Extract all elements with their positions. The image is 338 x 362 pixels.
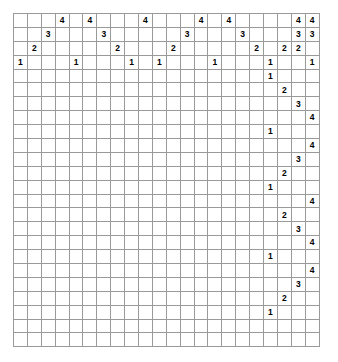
puzzle-cell-filled[interactable] — [41, 264, 55, 278]
puzzle-cell-empty[interactable] — [250, 277, 264, 291]
puzzle-cell-empty[interactable] — [69, 125, 83, 139]
puzzle-cell-filled[interactable] — [27, 250, 41, 264]
puzzle-cell-filled[interactable] — [222, 125, 236, 139]
puzzle-cell-filled[interactable] — [250, 250, 264, 264]
puzzle-cell-filled[interactable] — [222, 83, 236, 97]
puzzle-cell-filled[interactable] — [83, 111, 97, 125]
puzzle-cell-empty[interactable] — [41, 222, 55, 236]
puzzle-cell-empty[interactable] — [41, 333, 55, 347]
puzzle-cell-filled[interactable] — [222, 194, 236, 208]
puzzle-cell-filled[interactable] — [97, 166, 111, 180]
puzzle-cell-empty[interactable] — [69, 291, 83, 305]
puzzle-cell-empty[interactable] — [250, 152, 264, 166]
puzzle-cell-filled[interactable] — [166, 194, 180, 208]
puzzle-cell-filled[interactable] — [236, 83, 250, 97]
puzzle-cell-filled[interactable] — [41, 166, 55, 180]
puzzle-cell-filled[interactable] — [180, 208, 194, 222]
puzzle-cell-empty[interactable] — [180, 152, 194, 166]
puzzle-cell-filled[interactable] — [27, 111, 41, 125]
puzzle-cell-filled[interactable] — [236, 194, 250, 208]
puzzle-cell-empty[interactable] — [27, 152, 41, 166]
puzzle-cell-filled[interactable] — [55, 83, 69, 97]
puzzle-cell-filled[interactable] — [69, 83, 83, 97]
puzzle-cell-filled[interactable] — [27, 166, 41, 180]
puzzle-cell-empty[interactable] — [55, 319, 69, 333]
puzzle-cell-filled[interactable] — [125, 97, 139, 111]
puzzle-cell-empty[interactable] — [194, 83, 208, 97]
puzzle-cell-empty[interactable] — [250, 333, 264, 347]
puzzle-cell-empty[interactable] — [236, 139, 250, 153]
puzzle-cell-empty[interactable] — [14, 111, 28, 125]
puzzle-cell-filled[interactable] — [139, 291, 153, 305]
puzzle-cell-empty[interactable] — [208, 180, 222, 194]
puzzle-cell-filled[interactable] — [250, 166, 264, 180]
puzzle-cell-empty[interactable] — [55, 111, 69, 125]
puzzle-cell-filled[interactable] — [180, 83, 194, 97]
puzzle-cell-filled[interactable] — [152, 250, 166, 264]
puzzle-cell-empty[interactable] — [166, 319, 180, 333]
puzzle-cell-filled[interactable] — [111, 208, 125, 222]
puzzle-cell-filled[interactable] — [236, 333, 250, 347]
puzzle-cell-empty[interactable] — [41, 97, 55, 111]
puzzle-cell-empty[interactable] — [97, 222, 111, 236]
puzzle-cell-empty[interactable] — [27, 291, 41, 305]
puzzle-cell-empty[interactable] — [27, 194, 41, 208]
puzzle-cell-filled[interactable] — [250, 305, 264, 319]
puzzle-cell-filled[interactable] — [83, 166, 97, 180]
puzzle-cell-empty[interactable] — [194, 333, 208, 347]
puzzle-cell-empty[interactable] — [111, 180, 125, 194]
puzzle-cell-empty[interactable] — [14, 305, 28, 319]
puzzle-cell-empty[interactable] — [139, 333, 153, 347]
puzzle-cell-empty[interactable] — [55, 97, 69, 111]
puzzle-cell-filled[interactable] — [222, 208, 236, 222]
puzzle-cell-empty[interactable] — [27, 333, 41, 347]
puzzle-cell-empty[interactable] — [55, 250, 69, 264]
puzzle-cell-filled[interactable] — [194, 250, 208, 264]
puzzle-cell-empty[interactable] — [250, 139, 264, 153]
puzzle-cell-empty[interactable] — [194, 139, 208, 153]
puzzle-cell-empty[interactable] — [14, 277, 28, 291]
puzzle-cell-filled[interactable] — [250, 97, 264, 111]
puzzle-cell-empty[interactable] — [125, 166, 139, 180]
puzzle-cell-empty[interactable] — [194, 125, 208, 139]
puzzle-cell-filled[interactable] — [180, 139, 194, 153]
puzzle-cell-empty[interactable] — [236, 291, 250, 305]
puzzle-cell-filled[interactable] — [208, 264, 222, 278]
puzzle-cell-empty[interactable] — [152, 222, 166, 236]
puzzle-cell-filled[interactable] — [69, 319, 83, 333]
puzzle-cell-empty[interactable] — [83, 264, 97, 278]
puzzle-cell-empty[interactable] — [194, 208, 208, 222]
puzzle-cell-filled[interactable] — [194, 236, 208, 250]
puzzle-cell-empty[interactable] — [83, 291, 97, 305]
puzzle-cell-empty[interactable] — [27, 69, 41, 83]
puzzle-cell-filled[interactable] — [55, 69, 69, 83]
puzzle-cell-empty[interactable] — [208, 333, 222, 347]
puzzle-cell-empty[interactable] — [139, 208, 153, 222]
puzzle-cell-filled[interactable] — [250, 236, 264, 250]
puzzle-cell-empty[interactable] — [180, 291, 194, 305]
puzzle-cell-filled[interactable] — [55, 125, 69, 139]
puzzle-cell-empty[interactable] — [125, 277, 139, 291]
puzzle-cell-filled[interactable] — [166, 152, 180, 166]
puzzle-cell-filled[interactable] — [236, 236, 250, 250]
puzzle-cell-empty[interactable] — [83, 333, 97, 347]
puzzle-cell-filled[interactable] — [125, 83, 139, 97]
puzzle-cell-filled[interactable] — [166, 333, 180, 347]
puzzle-cell-empty[interactable] — [14, 264, 28, 278]
puzzle-cell-empty[interactable] — [222, 250, 236, 264]
puzzle-cell-empty[interactable] — [83, 139, 97, 153]
puzzle-cell-empty[interactable] — [208, 194, 222, 208]
puzzle-cell-filled[interactable] — [180, 69, 194, 83]
puzzle-cell-filled[interactable] — [55, 194, 69, 208]
puzzle-cell-filled[interactable] — [180, 236, 194, 250]
puzzle-cell-filled[interactable] — [236, 97, 250, 111]
puzzle-cell-filled[interactable] — [69, 333, 83, 347]
puzzle-cell-empty[interactable] — [250, 208, 264, 222]
puzzle-cell-empty[interactable] — [236, 264, 250, 278]
puzzle-cell-filled[interactable] — [41, 125, 55, 139]
puzzle-cell-filled[interactable] — [97, 111, 111, 125]
puzzle-cell-filled[interactable] — [152, 291, 166, 305]
puzzle-cell-empty[interactable] — [97, 333, 111, 347]
puzzle-cell-empty[interactable] — [236, 208, 250, 222]
puzzle-cell-empty[interactable] — [152, 83, 166, 97]
